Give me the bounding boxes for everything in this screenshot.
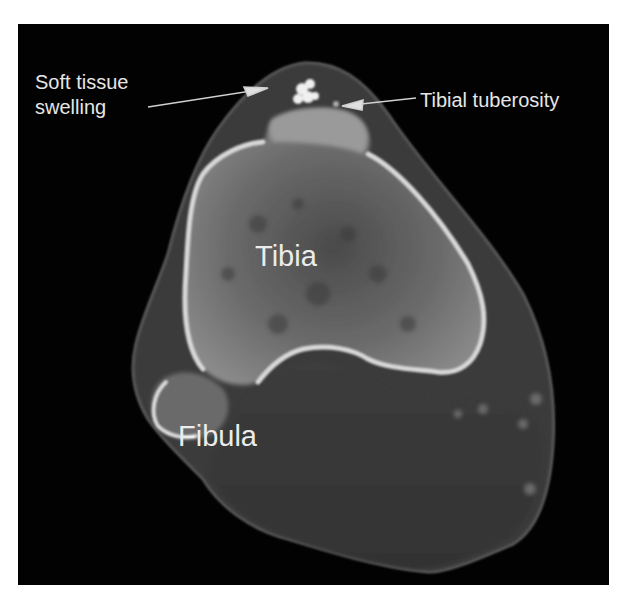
ct-image-panel: Soft tissue swelling Tibial tuberosity T…: [18, 24, 609, 585]
tibial-tuberosity-label: Tibial tuberosity: [420, 90, 559, 110]
fibula-label: Fibula: [178, 422, 257, 451]
tibia-bone: [185, 108, 484, 385]
soft-tissue-label-line2: swelling: [35, 95, 128, 120]
soft-tissue-label-line1: Soft tissue: [35, 70, 128, 95]
tibia-label: Tibia: [255, 242, 317, 271]
soft-tissue-swelling-label: Soft tissue swelling: [35, 70, 128, 120]
